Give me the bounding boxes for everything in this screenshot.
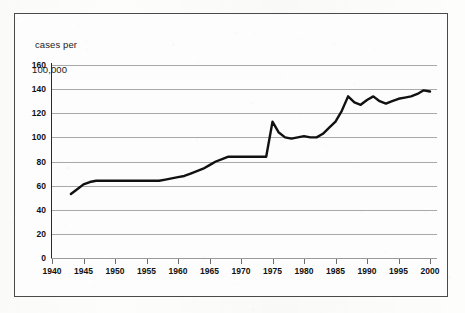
y-axis-line: [51, 63, 52, 259]
x-axis-tick-1970: [241, 259, 242, 264]
paper-speckle: [197, 61, 199, 63]
y-axis-label-20: 20: [16, 229, 46, 239]
paper-speckle: [206, 78, 207, 79]
x-axis-tick-1965: [210, 259, 211, 264]
x-axis-tick-1950: [115, 259, 116, 264]
paper-speckle: [77, 23, 80, 26]
paper-speckle: [424, 211, 427, 214]
paper-speckle: [159, 302, 160, 303]
x-axis-tick-1985: [336, 259, 337, 264]
paper-speckle: [320, 193, 321, 194]
paper-speckle: [77, 158, 78, 159]
scanned-page: cases per 100,000 020406080100120140160 …: [0, 0, 465, 313]
paper-speckle: [448, 276, 451, 279]
paper-speckle: [234, 283, 236, 285]
gridline-160: [52, 65, 437, 66]
paper-speckle: [5, 41, 7, 43]
y-axis-label-0: 0: [16, 253, 46, 263]
y-axis-label-60: 60: [16, 181, 46, 191]
paper-speckle: [200, 269, 202, 271]
gridline-80: [52, 162, 437, 163]
paper-speckle: [252, 308, 254, 310]
paper-speckle: [325, 145, 326, 146]
gridline-140: [52, 89, 437, 90]
paper-speckle: [443, 151, 445, 153]
x-axis-tick-1940: [52, 259, 53, 264]
paper-speckle: [360, 211, 362, 213]
paper-speckle: [446, 91, 448, 93]
x-axis-tick-1945: [84, 259, 85, 264]
paper-speckle: [370, 273, 372, 275]
gridline-20: [52, 234, 437, 235]
paper-speckle: [44, 34, 45, 35]
paper-speckle: [445, 24, 448, 27]
y-axis-label-80: 80: [16, 157, 46, 167]
paper-speckle: [64, 223, 67, 226]
x-axis-tick-1990: [367, 259, 368, 264]
y-axis-title-line1: cases per: [35, 39, 77, 50]
paper-speckle: [12, 174, 13, 175]
y-axis-label-100: 100: [16, 132, 46, 142]
gridline-40: [52, 210, 437, 211]
paper-speckle: [192, 300, 195, 303]
paper-speckle: [221, 311, 222, 312]
x-axis-label-2000: 2000: [410, 266, 450, 276]
paper-speckle: [346, 154, 348, 156]
paper-speckle: [422, 88, 425, 91]
paper-speckle: [316, 296, 318, 298]
x-axis-tick-1995: [399, 259, 400, 264]
x-axis-tick-1980: [304, 259, 305, 264]
paper-speckle: [321, 186, 323, 188]
paper-speckle: [172, 43, 175, 46]
paper-speckle: [251, 102, 253, 104]
paper-speckle: [109, 260, 112, 263]
paper-speckle: [15, 18, 17, 20]
paper-speckle: [85, 40, 88, 43]
paper-speckle: [300, 38, 302, 40]
paper-speckle: [333, 43, 335, 45]
y-axis-label-40: 40: [16, 205, 46, 215]
gridline-100: [52, 137, 437, 138]
x-axis-tick-1975: [273, 259, 274, 264]
gridline-60: [52, 186, 437, 187]
paper-speckle: [279, 76, 282, 79]
paper-speckle: [447, 126, 448, 127]
x-axis-tick-1955: [147, 259, 148, 264]
paper-speckle: [191, 82, 193, 84]
paper-speckle: [241, 6, 243, 8]
paper-speckle: [235, 32, 238, 35]
y-axis-label-140: 140: [16, 84, 46, 94]
x-axis-tick-2000: [430, 259, 431, 264]
gridline-120: [52, 113, 437, 114]
paper-speckle: [202, 256, 205, 259]
paper-speckle: [93, 285, 95, 287]
x-axis-tick-1960: [178, 259, 179, 264]
y-axis-label-160: 160: [16, 60, 46, 70]
paper-speckle: [253, 31, 256, 34]
paper-speckle: [207, 286, 210, 289]
